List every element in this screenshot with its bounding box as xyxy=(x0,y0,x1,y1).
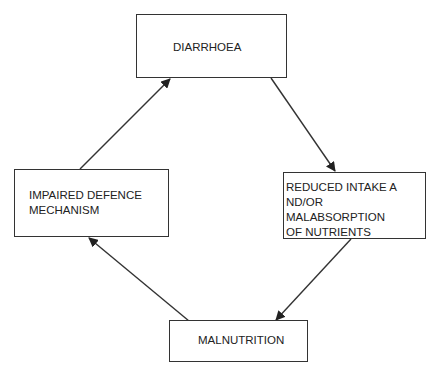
node-label: MALNUTRITION xyxy=(198,333,284,348)
node-diarrhoea: DIARRHOEA xyxy=(136,14,287,78)
node-label: REDUCED INTAKE A ND/OR MALABSORPTION OF … xyxy=(286,180,425,240)
arrow-diarrhoea-to-reduced-intake xyxy=(271,78,335,171)
arrow-impaired-defence-to-diarrhoea xyxy=(80,79,170,169)
node-impaired-defence: IMPAIRED DEFENCE MECHANISM xyxy=(14,169,169,237)
node-label: DIARRHOEA xyxy=(173,40,241,55)
node-label: IMPAIRED DEFENCE MECHANISM xyxy=(29,188,142,218)
node-reduced-intake: REDUCED INTAKE A ND/OR MALABSORPTION OF … xyxy=(283,172,426,239)
arrow-malnutrition-to-impaired-defence xyxy=(89,238,189,321)
node-malnutrition: MALNUTRITION xyxy=(169,320,308,362)
arrow-reduced-intake-to-malnutrition xyxy=(276,239,351,320)
